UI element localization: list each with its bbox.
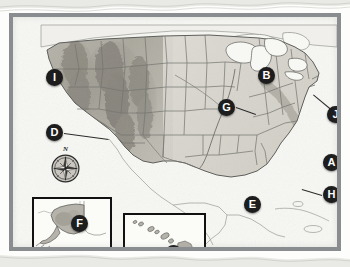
hawaii-map	[125, 215, 200, 247]
compass-north-label: N	[63, 145, 68, 153]
paper-edge-top	[0, 0, 350, 14]
marker-b[interactable]: B	[258, 67, 275, 84]
compass-rose-graphic	[51, 154, 80, 183]
marker-i[interactable]: I	[46, 69, 63, 86]
inset-hawaii	[123, 213, 206, 247]
paper-edge-bottom	[0, 253, 350, 267]
marker-d[interactable]: D	[46, 124, 63, 141]
marker-h[interactable]: H	[323, 186, 337, 203]
compass-rose: N	[51, 154, 80, 183]
marker-g[interactable]: G	[218, 99, 235, 116]
alaska-map	[34, 199, 106, 247]
map-page: N	[0, 0, 350, 267]
marker-j[interactable]: J	[327, 106, 337, 123]
marker-a[interactable]: A	[323, 154, 337, 171]
marker-e[interactable]: E	[244, 196, 261, 213]
map-frame: N	[9, 13, 341, 251]
map-canvas: N	[13, 17, 337, 247]
marker-f[interactable]: F	[71, 215, 88, 232]
